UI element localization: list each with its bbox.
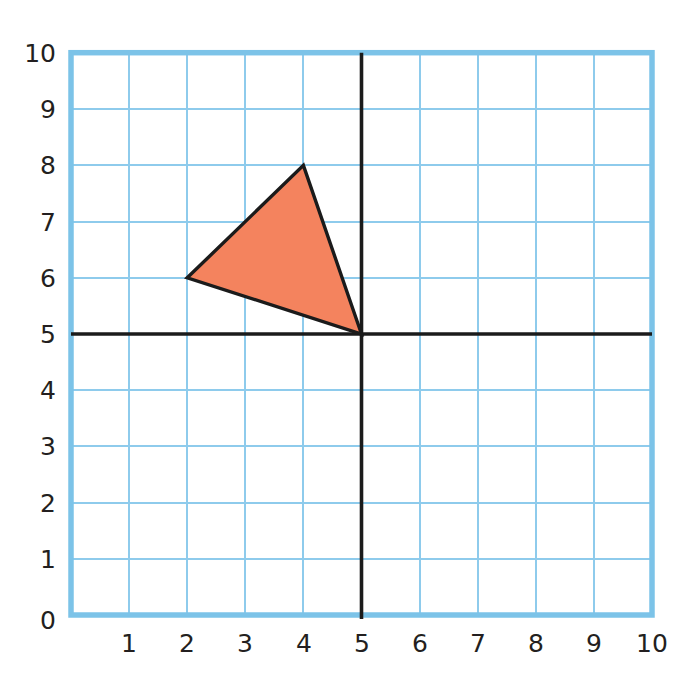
- y-tick-label-7: 7: [10, 210, 56, 235]
- x-tick-label-3: 3: [222, 631, 268, 656]
- y-tick-label-8: 8: [10, 153, 56, 178]
- x-tick-label-4: 4: [281, 631, 327, 656]
- x-tick-label-9: 9: [571, 631, 617, 656]
- y-tick-label-2: 2: [10, 491, 56, 516]
- x-tick-label-6: 6: [397, 631, 443, 656]
- figure-background: [0, 0, 700, 699]
- y-tick-label-10: 10: [10, 41, 56, 66]
- x-tick-label-5: 5: [339, 631, 385, 656]
- y-tick-label-4: 4: [10, 378, 56, 403]
- y-tick-label-0: 0: [10, 608, 56, 633]
- y-tick-label-3: 3: [10, 434, 56, 459]
- y-tick-label-1: 1: [10, 547, 56, 572]
- coordinate-grid-figure: 10 9 8 7 6 5 4 3 2 1 0 1 2 3 4 5 6 7 8 9…: [0, 0, 700, 699]
- y-tick-label-6: 6: [10, 266, 56, 291]
- x-tick-label-8: 8: [513, 631, 559, 656]
- x-tick-label-10: 10: [629, 631, 675, 656]
- x-tick-label-2: 2: [164, 631, 210, 656]
- y-tick-label-9: 9: [10, 97, 56, 122]
- x-tick-label-7: 7: [455, 631, 501, 656]
- plot-canvas: [0, 0, 700, 699]
- x-tick-label-1: 1: [106, 631, 152, 656]
- y-tick-label-5: 5: [10, 322, 56, 347]
